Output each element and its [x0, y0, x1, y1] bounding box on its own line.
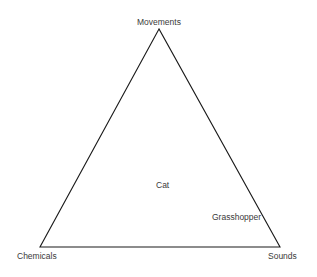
vertex-label-movements: Movements — [137, 18, 181, 27]
point-label-cat: Cat — [156, 181, 169, 190]
point-label-grasshopper: Grasshopper — [212, 213, 261, 222]
vertex-label-sounds: Sounds — [268, 252, 297, 261]
triangle-diagram — [0, 0, 317, 277]
vertex-label-chemicals: Chemicals — [17, 252, 57, 261]
